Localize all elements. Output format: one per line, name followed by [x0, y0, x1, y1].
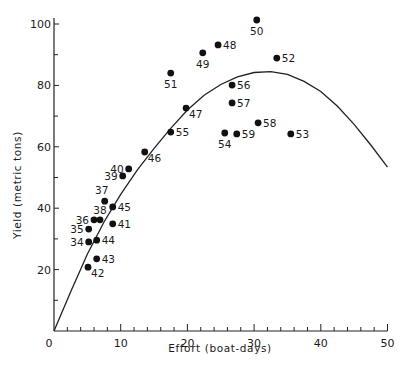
point-marker [199, 49, 206, 56]
data-point: 41 [109, 218, 131, 230]
y-tick-label: 100 [30, 18, 51, 31]
data-point: 43 [93, 253, 115, 265]
point-marker [125, 166, 132, 173]
point-marker [221, 130, 228, 137]
data-point: 37 [95, 184, 108, 204]
x-axis-title: Effort (boat-days) [168, 342, 271, 354]
point-marker [85, 226, 92, 233]
point-label: 37 [95, 184, 108, 196]
point-label: 47 [189, 108, 202, 120]
point-label: 40 [110, 163, 123, 175]
x-tick-label: 10 [114, 337, 128, 350]
point-marker [229, 82, 236, 89]
data-point: 45 [109, 201, 131, 213]
point-label: 49 [196, 58, 209, 70]
data-point: 40 [110, 163, 132, 175]
point-label: 52 [282, 52, 295, 64]
point-label: 53 [296, 128, 309, 140]
point-label: 59 [242, 128, 255, 140]
data-points: 3435363738394041424344454647484950515253… [70, 17, 309, 280]
point-marker [109, 220, 116, 227]
point-marker [97, 216, 104, 223]
point-label: 46 [148, 152, 162, 164]
data-point: 59 [233, 128, 255, 140]
data-point: 58 [255, 117, 277, 129]
yield-effort-chart: 20406080100 01020304050 3435363738394041… [0, 0, 408, 366]
point-label: 54 [218, 138, 232, 150]
y-tick-label: 60 [37, 141, 51, 154]
point-marker [253, 17, 260, 24]
point-label: 50 [250, 25, 263, 37]
data-point: 49 [196, 49, 209, 69]
data-point: 57 [229, 97, 251, 109]
point-marker [273, 55, 280, 62]
x-tick-label: 0 [46, 337, 53, 350]
point-label: 42 [91, 267, 104, 279]
point-marker [91, 216, 98, 223]
point-marker [167, 129, 174, 136]
point-marker [233, 131, 240, 138]
point-marker [229, 99, 236, 106]
point-label: 57 [237, 97, 250, 109]
point-marker [255, 119, 262, 126]
point-marker [287, 131, 294, 138]
point-label: 48 [223, 39, 236, 51]
y-tick-label: 80 [37, 79, 51, 92]
point-label: 55 [176, 126, 189, 138]
y-tick-label: 20 [37, 264, 51, 277]
data-point: 52 [273, 52, 295, 64]
data-point: 34 [70, 236, 92, 248]
x-tick-label: 40 [314, 337, 328, 350]
data-point: 56 [229, 79, 251, 91]
point-label: 56 [237, 79, 251, 91]
point-marker [167, 70, 174, 77]
point-label: 34 [70, 236, 84, 248]
point-label: 45 [118, 201, 131, 213]
point-label: 58 [263, 117, 276, 129]
point-label: 41 [118, 218, 131, 230]
point-label: 44 [102, 234, 116, 246]
point-marker [85, 239, 92, 246]
data-point: 50 [250, 17, 263, 37]
point-marker [215, 41, 222, 48]
point-label: 51 [164, 78, 177, 90]
x-tick-label: 50 [381, 337, 395, 350]
data-point: 53 [287, 128, 309, 140]
y-axis-title: Yield (metric tons) [11, 131, 23, 240]
point-marker [109, 204, 116, 211]
point-label: 43 [102, 253, 115, 265]
data-point: 48 [215, 39, 237, 51]
y-axis: 20406080100 [30, 18, 59, 331]
point-marker [93, 255, 100, 262]
y-tick-label: 40 [37, 202, 51, 215]
data-point: 54 [218, 130, 232, 150]
data-point: 42 [85, 264, 105, 279]
point-label: 36 [76, 214, 90, 226]
point-label: 38 [93, 204, 106, 216]
point-marker [93, 237, 100, 244]
data-point: 51 [164, 70, 177, 90]
